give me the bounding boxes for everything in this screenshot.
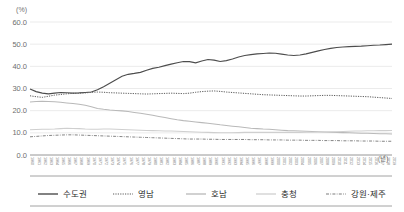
legend-label-충청: 충청	[281, 189, 297, 199]
y-axis-unit-label: (%)	[16, 6, 27, 14]
y-axis-tick-label: 20.0	[12, 106, 27, 115]
x-axis-tick-label: 1998	[264, 157, 268, 165]
x-axis-tick-label: 2005	[307, 157, 311, 165]
x-axis-tick-label: 1969	[86, 157, 90, 165]
x-axis-unit-label: (년)	[378, 154, 388, 163]
x-axis-tick-label: 1965	[61, 157, 65, 165]
x-axis-tick-label: 1991	[221, 157, 225, 165]
x-axis-tick-label: 1989	[208, 157, 212, 165]
series-lines	[30, 44, 392, 141]
x-axis-tick-label: 1961	[37, 157, 41, 165]
series-line-강원·제주	[30, 135, 392, 141]
x-axis-tick-label: 1963	[49, 157, 53, 165]
x-axis-tick-label: 1960	[30, 157, 34, 165]
x-axis-tick-labels: 1960196119621963196419651966196719681969…	[30, 157, 396, 165]
y-axis-tick-label: 50.0	[12, 40, 27, 49]
x-axis-tick-label: 2001	[282, 157, 286, 165]
x-axis-tick-label: 2003	[294, 157, 298, 165]
y-axis-tick-labels: 0.010.020.030.040.050.060.0	[12, 18, 27, 160]
x-axis-tick-label: 1970	[92, 157, 96, 165]
legend: 수도권영남호남충청강원·제주	[38, 189, 386, 199]
x-axis-tick-label: 1976	[129, 157, 133, 165]
x-axis-tick-label: 1974	[116, 157, 120, 165]
legend-label-수도권: 수도권	[63, 189, 87, 199]
y-axis-tick-label: 60.0	[12, 18, 27, 27]
x-axis-tick-label: 2007	[319, 157, 323, 165]
legend-label-강원·제주: 강원·제주	[351, 189, 386, 199]
x-axis-tick-label: 2004	[300, 157, 304, 165]
x-axis-tick-label: 1999	[270, 157, 274, 165]
x-axis-tick-label: 2008	[325, 157, 329, 165]
x-axis-tick-label: 1984	[178, 157, 182, 165]
chart-svg: 0.010.020.030.040.050.060.0 (%) 19601961…	[0, 0, 404, 212]
x-axis-tick-label: 2002	[288, 157, 292, 165]
x-axis-tick-label: 1982	[165, 157, 169, 165]
x-axis-tick-label: 1973	[110, 157, 114, 165]
x-axis-tick-label: 1979	[147, 157, 151, 165]
x-axis-tick-label: 1981	[159, 157, 163, 165]
legend-label-영남: 영남	[138, 189, 154, 199]
x-axis-tick-label: 2011	[343, 157, 347, 165]
x-axis-tick-label: 1966	[67, 157, 71, 165]
y-axis-tick-label: 10.0	[12, 128, 27, 137]
series-line-충청	[30, 128, 392, 133]
x-axis-tick-label: 1968	[79, 157, 83, 165]
x-axis-tick-label: 1994	[239, 157, 243, 165]
x-axis-tick-label: 1972	[104, 157, 108, 165]
y-axis-tick-label: 30.0	[12, 84, 27, 93]
x-axis-tick-label: 1987	[196, 157, 200, 165]
x-axis-tick-label: 1986	[190, 157, 194, 165]
x-axis-tick-label: 1985	[184, 157, 188, 165]
x-axis-tick-label: 1992	[227, 157, 231, 165]
x-axis-tick-label: 1962	[43, 157, 47, 165]
x-axis-tick-label: 1988	[202, 157, 206, 165]
x-axis-tick-label: 2014	[362, 157, 366, 165]
x-axis-tick-label: 1977	[135, 157, 139, 165]
x-axis-tick-label: 2015	[368, 157, 372, 165]
x-axis-tick-label: 2010	[337, 157, 341, 165]
x-axis-tick-label: 1964	[55, 157, 59, 165]
x-axis-tick-label: 2019	[392, 157, 396, 165]
x-axis-tick-label: 1995	[245, 157, 249, 165]
x-axis-tick-label: 1997	[257, 157, 261, 165]
x-axis-tick-label: 1971	[98, 157, 102, 165]
x-axis-tick-label: 1990	[214, 157, 218, 165]
x-axis-tick-label: 2000	[276, 157, 280, 165]
x-axis-tick-label: 2013	[356, 157, 360, 165]
x-axis-tick-label: 2006	[313, 157, 317, 165]
x-axis-tick-label: 1983	[172, 157, 176, 165]
x-axis-tick-label: 1978	[141, 157, 145, 165]
regional-population-share-chart: 0.010.020.030.040.050.060.0 (%) 19601961…	[0, 0, 404, 212]
legend-label-호남: 호남	[211, 189, 227, 199]
x-axis-tick-label: 2012	[349, 157, 353, 165]
series-line-수도권	[30, 44, 392, 94]
x-axis-tick-label: 1967	[73, 157, 77, 165]
gridlines	[30, 22, 392, 133]
y-axis-tick-label: 0.0	[17, 151, 27, 160]
y-axis-tick-label: 40.0	[12, 62, 27, 71]
x-axis-tick-label: 1980	[153, 157, 157, 165]
x-axis-tick-label: 1975	[122, 157, 126, 165]
x-axis-tick-label: 2009	[331, 157, 335, 165]
x-axis-tick-label: 1993	[233, 157, 237, 165]
x-axis-tick-label: 1996	[251, 157, 255, 165]
